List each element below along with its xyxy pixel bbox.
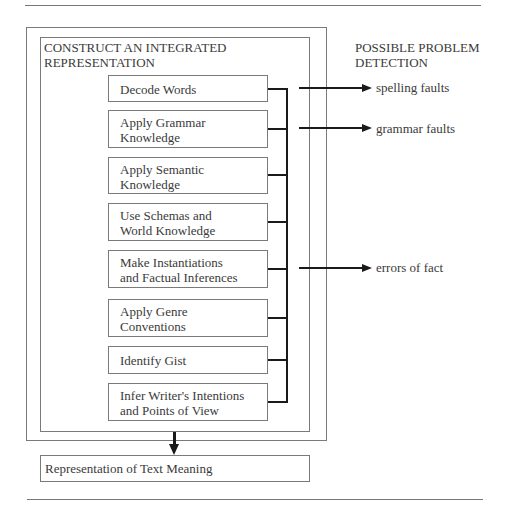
- connector-3: [268, 174, 288, 176]
- step-label: Decode Words: [120, 82, 267, 97]
- step-label: World Knowledge: [120, 223, 267, 238]
- connector-2: [268, 128, 288, 130]
- arrow-right-icon: [362, 264, 372, 272]
- arrow-spelling-shaft: [299, 87, 363, 89]
- connector-7: [268, 359, 288, 361]
- integrated-representation-heading: CONSTRUCT AN INTEGRATED REPRESENTATION: [44, 40, 227, 70]
- step-apply-genre-conventions: Apply Genre Conventions: [108, 299, 268, 337]
- connector-6: [268, 317, 288, 319]
- detection-errors-of-fact: errors of fact: [376, 260, 443, 275]
- step-label: Knowledge: [120, 130, 267, 145]
- heading-line-1: CONSTRUCT AN INTEGRATED: [44, 40, 227, 55]
- connector-8: [268, 401, 288, 403]
- step-decode-words: Decode Words: [108, 75, 268, 102]
- step-label: Use Schemas and: [120, 208, 267, 223]
- side-heading-line-1: POSSIBLE PROBLEM: [355, 40, 480, 55]
- connector-bus: [286, 88, 288, 402]
- step-label: Make Instantiations: [120, 255, 267, 270]
- connector-4: [268, 221, 288, 223]
- step-label: Conventions: [120, 319, 267, 334]
- detection-spelling-faults: spelling faults: [376, 80, 449, 95]
- step-apply-semantic-knowledge: Apply Semantic Knowledge: [108, 157, 268, 194]
- output-label: Representation of Text Meaning: [45, 461, 212, 476]
- step-label: Infer Writer's Intentions: [120, 388, 267, 403]
- step-identify-gist: Identify Gist: [108, 346, 268, 374]
- representation-of-text-meaning: Representation of Text Meaning: [40, 455, 310, 482]
- side-heading-line-2: DETECTION: [355, 55, 480, 70]
- step-label: Apply Genre: [120, 304, 267, 319]
- step-apply-grammar-knowledge: Apply Grammar Knowledge: [108, 110, 268, 148]
- top-rule: [25, 5, 481, 6]
- problem-detection-heading: POSSIBLE PROBLEM DETECTION: [355, 40, 480, 70]
- step-label: Identify Gist: [120, 353, 267, 368]
- step-infer-writers-intentions: Infer Writer's Intentions and Points of …: [108, 383, 268, 421]
- step-label: and Points of View: [120, 403, 267, 418]
- connector-5: [268, 268, 288, 270]
- arrow-right-icon: [362, 84, 372, 92]
- step-use-schemas: Use Schemas and World Knowledge: [108, 203, 268, 241]
- arrow-grammar-shaft: [299, 127, 363, 129]
- step-label: Apply Grammar: [120, 115, 267, 130]
- step-label: Apply Semantic: [120, 162, 267, 177]
- bottom-rule: [27, 499, 483, 500]
- step-label: and Factual Inferences: [120, 270, 267, 285]
- arrow-errors-shaft: [299, 267, 363, 269]
- connector-1: [268, 88, 288, 90]
- step-make-instantiations: Make Instantiations and Factual Inferenc…: [108, 250, 268, 288]
- arrow-right-icon: [362, 124, 372, 132]
- arrow-down-icon: [169, 444, 179, 455]
- detection-grammar-faults: grammar faults: [376, 121, 455, 136]
- step-label: Knowledge: [120, 177, 267, 192]
- heading-line-2: REPRESENTATION: [44, 55, 227, 70]
